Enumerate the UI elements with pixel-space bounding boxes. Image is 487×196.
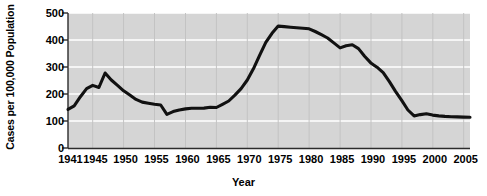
x-axis-label: Year <box>0 176 487 188</box>
x-tick-label-2005: 2005 <box>446 153 486 165</box>
chart-figure: Cases per 100,000 Population <box>0 0 487 196</box>
x-tick-label-group: 1941 1945 1950 1955 1960 1965 1970 1975 … <box>0 0 487 196</box>
